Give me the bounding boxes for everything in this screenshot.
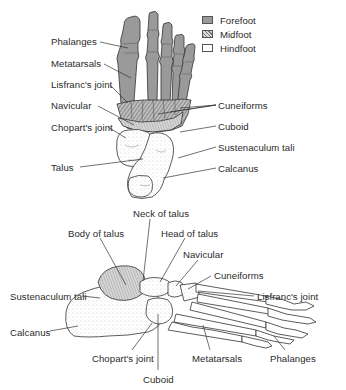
talus-head-bone bbox=[140, 278, 172, 297]
label-cuneiforms-dorsal: Cuneiforms bbox=[218, 100, 268, 111]
label-phalanges-dorsal: Phalanges bbox=[51, 36, 97, 47]
cuboid-bone bbox=[146, 298, 173, 324]
midfoot-swatch-icon bbox=[202, 30, 213, 38]
label-metatarsals-dorsal: Metatarsals bbox=[51, 58, 101, 69]
label-neck-of-talus: Neck of talus bbox=[133, 208, 189, 219]
legend-item-hindfoot: Hindfoot bbox=[202, 41, 256, 55]
label-calcanus-dorsal: Calcanus bbox=[218, 163, 258, 174]
label-phalanges-lateral: Phalanges bbox=[270, 353, 316, 364]
label-lisfranc-joint-lateral: Lisfranc's joint bbox=[257, 291, 318, 302]
label-calcanus-lateral: Calcanus bbox=[10, 327, 50, 338]
label-chopart-joint-dorsal: Chopart's joint bbox=[51, 122, 113, 133]
hindfoot-swatch-icon bbox=[202, 44, 213, 52]
forefoot-swatch-icon bbox=[202, 16, 213, 24]
dorsal-foot-illustration bbox=[117, 11, 195, 198]
label-sustenaculum-tali-lateral: Sustenaculum tali bbox=[10, 291, 87, 302]
label-cuboid-dorsal: Cuboid bbox=[218, 121, 249, 132]
legend-label: Forefoot bbox=[220, 15, 256, 26]
label-head-of-talus: Head of talus bbox=[161, 228, 218, 239]
label-cuboid-lateral: Cuboid bbox=[143, 374, 174, 385]
label-talus-dorsal: Talus bbox=[51, 162, 74, 173]
forefoot-bones bbox=[117, 11, 195, 108]
label-cuneiforms-lateral: Cuneiforms bbox=[214, 270, 264, 281]
midfoot-bones bbox=[117, 99, 191, 132]
lateral-foot-illustration bbox=[66, 266, 316, 348]
label-metatarsals-lateral: Metatarsals bbox=[192, 353, 242, 364]
legend-label: Midfoot bbox=[220, 29, 251, 40]
label-navicular-dorsal: Navicular bbox=[51, 100, 91, 111]
label-body-of-talus: Body of talus bbox=[68, 228, 124, 239]
label-lisfranc-joint-dorsal: Lisfranc's joint bbox=[51, 79, 112, 90]
legend-label: Hindfoot bbox=[220, 43, 256, 54]
label-navicular-lateral: Navicular bbox=[183, 249, 223, 260]
hindfoot-bones bbox=[117, 129, 174, 198]
label-sustenaculum-tali-dorsal: Sustenaculum tali bbox=[218, 142, 295, 153]
legend-item-forefoot: Forefoot bbox=[202, 13, 256, 27]
region-legend: Forefoot Midfoot Hindfoot bbox=[202, 13, 256, 55]
label-chopart-joint-lateral: Chopart's joint bbox=[92, 353, 154, 364]
legend-item-midfoot: Midfoot bbox=[202, 27, 256, 41]
